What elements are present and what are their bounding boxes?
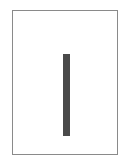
vertical-bar-glyph [63, 54, 70, 136]
page-thumbnail[interactable] [12, 10, 118, 155]
